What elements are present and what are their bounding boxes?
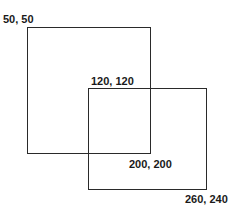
label-rect-a-top-left: 50, 50 <box>3 13 34 25</box>
label-rect-b-top-left: 120, 120 <box>91 75 134 87</box>
rectangle-b <box>88 88 207 190</box>
label-rect-a-bottom-right: 200, 200 <box>129 158 172 170</box>
label-rect-b-bottom-right: 260, 240 <box>185 193 228 205</box>
diagram-canvas: 50, 50 120, 120 200, 200 260, 240 <box>0 0 243 217</box>
